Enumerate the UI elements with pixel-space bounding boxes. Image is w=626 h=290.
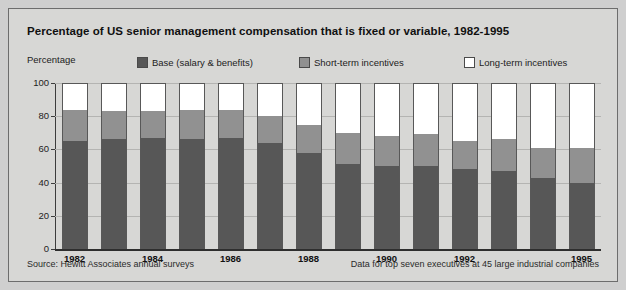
bar-column	[218, 83, 244, 249]
legend-swatch-base	[137, 57, 148, 68]
bar-column	[179, 83, 205, 249]
legend-swatch-long-term	[464, 57, 475, 68]
bar-segment	[140, 111, 166, 138]
x-axis-line	[55, 249, 601, 251]
y-axis-tick-label: 100	[23, 77, 49, 88]
bar-segment	[296, 125, 322, 153]
chart-panel: Percentage of US senior management compe…	[8, 8, 618, 282]
legend-item-long-term: Long-term incentives	[464, 53, 567, 67]
bar-segment	[335, 164, 361, 249]
data-note: Data for top seven executives at 45 larg…	[351, 259, 599, 269]
bar-segment	[218, 110, 244, 138]
bar-segment	[530, 148, 556, 178]
legend-label-base: Base (salary & benefits)	[152, 57, 253, 68]
bar-segment	[257, 116, 283, 143]
bar-segment	[413, 166, 439, 249]
legend-label-long-term: Long-term incentives	[479, 57, 567, 68]
bar-segment	[296, 153, 322, 249]
y-axis-tick-mark	[51, 183, 55, 184]
bar-segment	[452, 169, 478, 249]
bar-segment	[335, 83, 361, 133]
y-axis-tick-label: 20	[23, 210, 49, 221]
y-axis-tick-label: 40	[23, 177, 49, 188]
bar-column	[257, 83, 283, 249]
gridline	[55, 216, 601, 217]
bar-column	[140, 83, 166, 249]
bar-segment	[452, 141, 478, 169]
bar-segment	[296, 83, 322, 125]
bar-column	[335, 83, 361, 249]
y-axis-tick-mark	[51, 249, 55, 250]
bar-segment	[257, 143, 283, 249]
legend-swatch-short-term	[299, 57, 310, 68]
bar-segment	[569, 148, 595, 183]
x-axis-tick-label: 1988	[279, 253, 339, 264]
bar-segment	[257, 83, 283, 116]
bar-column	[374, 83, 400, 249]
bar-segment	[491, 171, 517, 249]
x-axis-tick-label: 1986	[201, 253, 261, 264]
plot-area: 020406080100 198219841986198819901992199…	[55, 75, 601, 249]
y-axis-tick-mark	[51, 149, 55, 150]
bar-segment	[101, 83, 127, 111]
bar-segment	[179, 83, 205, 110]
bar-segment	[140, 138, 166, 249]
y-axis-title: Percentage	[27, 54, 76, 65]
chart-figure: Percentage of US senior management compe…	[0, 0, 626, 290]
chart-legend: Percentage Base (salary & benefits) Shor…	[27, 53, 609, 69]
bar-segment	[101, 111, 127, 139]
bar-column	[491, 83, 517, 249]
bars-container	[55, 83, 601, 249]
gridline	[55, 183, 601, 184]
bar-column	[101, 83, 127, 249]
bar-segment	[218, 138, 244, 249]
y-axis-tick-mark	[51, 83, 55, 84]
y-axis-tick-label: 80	[23, 110, 49, 121]
bar-column	[452, 83, 478, 249]
bar-segment	[491, 139, 517, 171]
y-axis-tick-label: 60	[23, 143, 49, 154]
bar-column	[62, 83, 88, 249]
bar-column	[569, 83, 595, 249]
bar-segment	[62, 110, 88, 142]
bar-segment	[452, 83, 478, 141]
legend-item-base: Base (salary & benefits)	[137, 53, 253, 67]
bar-column	[530, 83, 556, 249]
bar-segment	[374, 166, 400, 249]
bar-segment	[491, 83, 517, 139]
bar-segment	[101, 139, 127, 249]
bar-segment	[179, 139, 205, 249]
bar-segment	[530, 178, 556, 249]
gridline	[55, 83, 601, 84]
bar-segment	[218, 83, 244, 110]
bar-segment	[374, 136, 400, 166]
bar-segment	[530, 83, 556, 148]
bar-column	[296, 83, 322, 249]
bar-segment	[413, 134, 439, 166]
bar-segment	[569, 83, 595, 148]
bar-column	[413, 83, 439, 249]
legend-label-short-term: Short-term incentives	[314, 57, 404, 68]
bar-segment	[335, 133, 361, 165]
chart-title: Percentage of US senior management compe…	[27, 25, 509, 37]
legend-item-short-term: Short-term incentives	[299, 53, 404, 67]
bar-segment	[62, 141, 88, 249]
y-axis-tick-mark	[51, 116, 55, 117]
bar-segment	[179, 110, 205, 140]
bar-segment	[413, 83, 439, 134]
bar-segment	[140, 83, 166, 111]
gridline	[55, 149, 601, 150]
bar-segment	[569, 183, 595, 249]
source-note: Source: Hewitt Associates annual surveys	[27, 259, 194, 269]
y-axis-tick-mark	[51, 216, 55, 217]
bar-segment	[62, 83, 88, 110]
bar-segment	[374, 83, 400, 136]
gridline	[55, 116, 601, 117]
